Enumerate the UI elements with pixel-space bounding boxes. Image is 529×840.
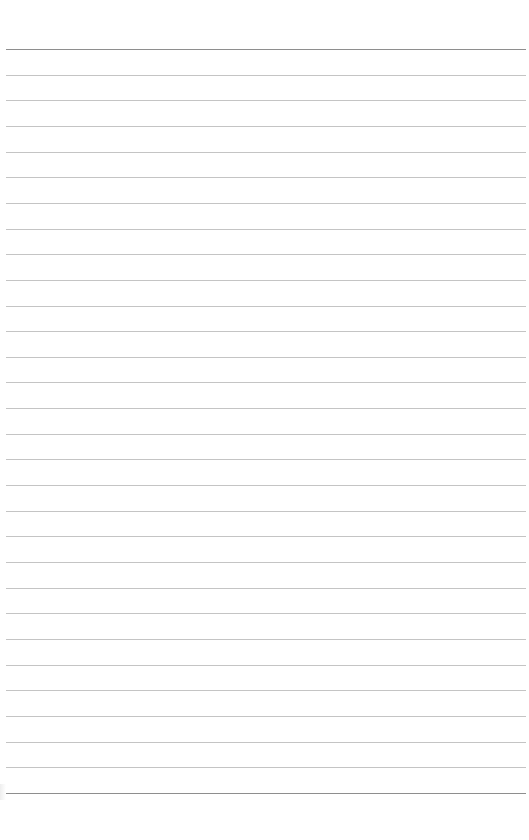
ruled-line [6,126,526,127]
ruled-line [6,690,526,691]
ruled-line [6,177,526,178]
ruled-line [6,306,526,307]
ruled-line [6,254,526,255]
ruled-line [6,331,526,332]
lined-paper-sheet [0,0,529,840]
ruled-line [6,408,526,409]
ruled-line [6,280,526,281]
ruled-line [6,793,526,794]
ruled-line [6,49,526,50]
ruled-line [6,75,526,76]
ruled-line [6,152,526,153]
ruled-line [6,639,526,640]
ruled-line [6,562,526,563]
ruled-line [6,485,526,486]
ruled-line [6,588,526,589]
ruled-line [6,382,526,383]
ruled-line [6,511,526,512]
ruled-line [6,665,526,666]
ruled-line [6,434,526,435]
ruled-line [6,536,526,537]
ruled-line [6,100,526,101]
ruled-line [6,203,526,204]
ruled-line [6,357,526,358]
ruled-line [6,767,526,768]
ruled-line [6,716,526,717]
page-edge-shadow [0,784,6,800]
ruled-line [6,459,526,460]
ruled-line [6,742,526,743]
ruled-line [6,613,526,614]
ruled-line [6,229,526,230]
